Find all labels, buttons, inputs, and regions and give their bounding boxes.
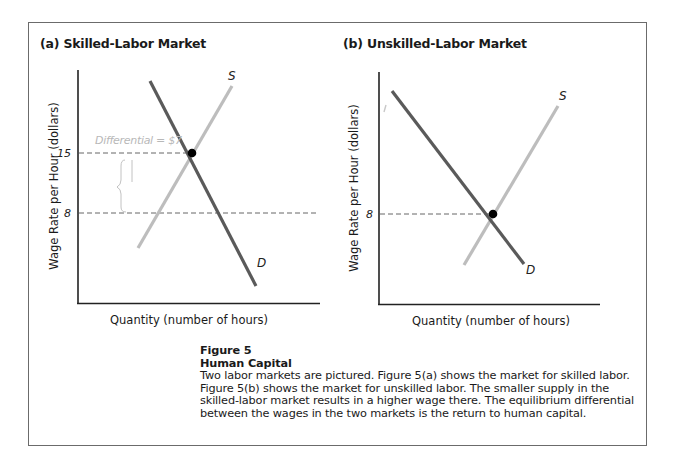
panel-a-tick-15: 15	[57, 147, 71, 160]
panel-a-supply-label: S	[228, 69, 236, 83]
panel-b-y-label: Wage Rate per Hour (dollars)	[347, 104, 361, 271]
panel-a-demand-curve	[150, 81, 256, 286]
panel-b-x-label: Quantity (number of hours)	[412, 314, 570, 328]
panel-a-chart	[77, 70, 320, 304]
panel-b-supply-curve	[464, 106, 558, 265]
panel-b-stray-mark	[384, 105, 386, 112]
panel-a-tick-8: 8	[64, 207, 71, 220]
figure-caption: Figure 5 Human Capital Two labor markets…	[200, 345, 640, 421]
panel-a-supply-curve	[138, 86, 232, 248]
figure-number: Figure 5	[200, 345, 640, 358]
panel-a-differential-label: Differential = $7	[95, 134, 182, 147]
panel-b-chart	[378, 72, 600, 305]
panel-a-y-label: Wage Rate per Hour (dollars)	[47, 102, 61, 269]
panel-b-tick-8: 8	[366, 208, 373, 221]
panel-a-differential-bracket	[117, 160, 132, 212]
panel-b-demand-curve	[392, 91, 524, 264]
panel-b-supply-label: S	[559, 89, 567, 103]
panel-a-demand-label: D	[257, 256, 266, 270]
panel-b-demand-label: D	[526, 263, 535, 277]
panel-a-equilibrium-point	[188, 149, 197, 158]
panel-a-x-label: Quantity (number of hours)	[110, 313, 268, 327]
figure-description: Two labor markets are pictured. Figure 5…	[200, 370, 640, 420]
panel-b-equilibrium-point	[489, 210, 498, 219]
